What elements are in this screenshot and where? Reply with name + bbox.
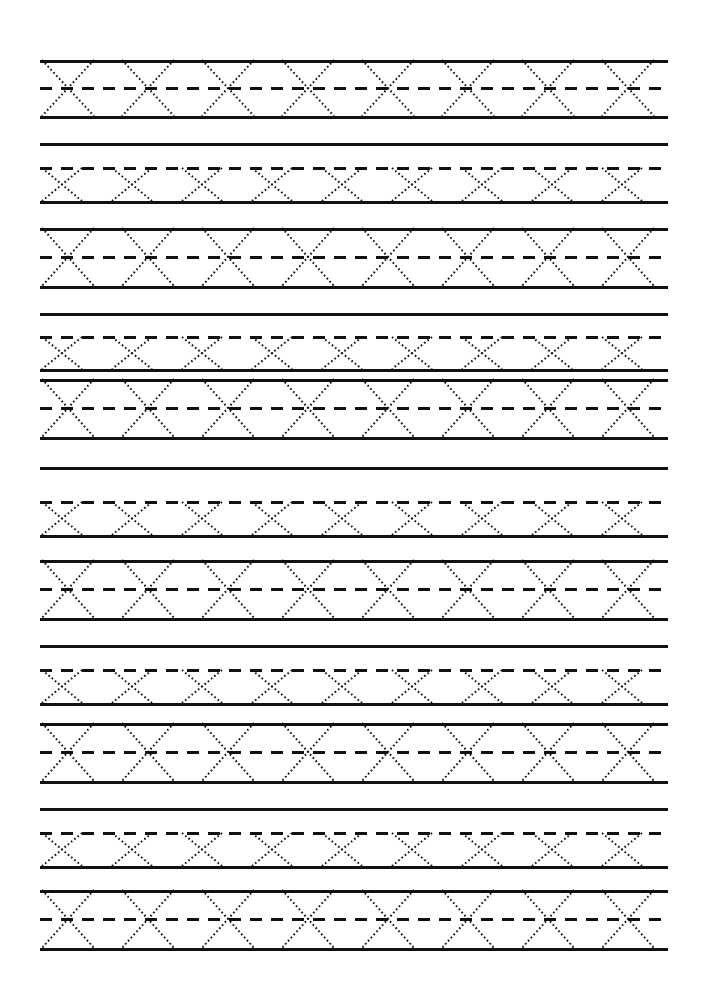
worksheet-page xyxy=(0,0,706,996)
trace-letter-x[interactable] xyxy=(252,502,292,535)
trace-letter-x[interactable] xyxy=(462,833,502,866)
trace-letter-x[interactable] xyxy=(602,228,654,286)
trace-letter-x[interactable] xyxy=(602,502,642,535)
trace-letter-x[interactable] xyxy=(182,670,222,703)
trace-letter-x[interactable] xyxy=(182,833,222,866)
trace-letter-x[interactable] xyxy=(252,168,292,201)
trace-letter-x[interactable] xyxy=(42,379,94,437)
trace-letter-x[interactable] xyxy=(282,60,334,116)
trace-letter-x[interactable] xyxy=(362,228,414,286)
guide-line-row9-base xyxy=(40,781,668,784)
trace-letter-x[interactable] xyxy=(392,337,432,369)
trace-letter-x[interactable] xyxy=(182,337,222,369)
trace-letter-x[interactable] xyxy=(522,890,574,948)
trace-letter-x[interactable] xyxy=(442,60,494,116)
trace-letter-x[interactable] xyxy=(282,723,334,781)
guide-line-row11-base xyxy=(40,948,668,951)
trace-letter-x[interactable] xyxy=(602,379,654,437)
trace-letter-x[interactable] xyxy=(42,890,94,948)
trace-letter-x[interactable] xyxy=(392,833,432,866)
trace-letter-x[interactable] xyxy=(122,560,174,618)
trace-letter-x[interactable] xyxy=(42,560,94,618)
trace-letter-x[interactable] xyxy=(602,890,654,948)
trace-letter-x[interactable] xyxy=(112,337,152,369)
guide-line-row5-base xyxy=(40,437,668,440)
trace-letter-x[interactable] xyxy=(522,560,574,618)
trace-letter-x[interactable] xyxy=(122,379,174,437)
trace-letter-x[interactable] xyxy=(462,670,502,703)
trace-letter-x[interactable] xyxy=(282,560,334,618)
trace-letter-x[interactable] xyxy=(42,228,94,286)
guide-line-separator xyxy=(40,467,668,470)
trace-letter-x[interactable] xyxy=(442,379,494,437)
trace-letter-x[interactable] xyxy=(392,168,432,201)
trace-letter-x[interactable] xyxy=(522,723,574,781)
trace-letter-x[interactable] xyxy=(522,60,574,116)
trace-letter-x[interactable] xyxy=(602,670,642,703)
trace-letter-x[interactable] xyxy=(322,670,362,703)
trace-letter-x[interactable] xyxy=(252,833,292,866)
trace-letter-x[interactable] xyxy=(252,337,292,369)
trace-letter-x[interactable] xyxy=(42,60,94,116)
trace-letter-x[interactable] xyxy=(362,60,414,116)
trace-letter-x[interactable] xyxy=(442,723,494,781)
trace-letter-x[interactable] xyxy=(122,723,174,781)
trace-letter-x[interactable] xyxy=(392,670,432,703)
trace-letter-x[interactable] xyxy=(362,560,414,618)
trace-letter-x[interactable] xyxy=(202,379,254,437)
trace-letter-x[interactable] xyxy=(532,670,572,703)
trace-letter-x[interactable] xyxy=(112,168,152,201)
trace-letter-x[interactable] xyxy=(602,560,654,618)
trace-letter-x[interactable] xyxy=(442,228,494,286)
trace-letter-x[interactable] xyxy=(122,890,174,948)
trace-letter-x[interactable] xyxy=(182,502,222,535)
trace-letter-x[interactable] xyxy=(362,890,414,948)
trace-letter-x[interactable] xyxy=(522,228,574,286)
trace-letter-x[interactable] xyxy=(602,833,642,866)
trace-letter-x[interactable] xyxy=(532,502,572,535)
trace-letter-x[interactable] xyxy=(202,890,254,948)
trace-letter-x[interactable] xyxy=(202,228,254,286)
guide-line-row7-base xyxy=(40,618,668,621)
trace-letter-x[interactable] xyxy=(202,723,254,781)
trace-letter-x[interactable] xyxy=(532,168,572,201)
trace-letter-x[interactable] xyxy=(202,60,254,116)
trace-letter-x[interactable] xyxy=(462,168,502,201)
trace-letter-x[interactable] xyxy=(202,560,254,618)
trace-letter-x[interactable] xyxy=(532,833,572,866)
trace-letter-x[interactable] xyxy=(42,833,82,866)
trace-letter-x[interactable] xyxy=(42,502,82,535)
trace-letter-x[interactable] xyxy=(42,168,82,201)
trace-letter-x[interactable] xyxy=(322,168,362,201)
trace-letter-x[interactable] xyxy=(112,670,152,703)
trace-letter-x[interactable] xyxy=(442,560,494,618)
trace-letter-x[interactable] xyxy=(252,670,292,703)
trace-letter-x[interactable] xyxy=(112,502,152,535)
trace-letter-x[interactable] xyxy=(322,502,362,535)
trace-letter-x[interactable] xyxy=(182,168,222,201)
trace-letter-x[interactable] xyxy=(122,60,174,116)
trace-letter-x[interactable] xyxy=(602,60,654,116)
trace-letter-x[interactable] xyxy=(282,228,334,286)
trace-letter-x[interactable] xyxy=(532,337,572,369)
trace-letter-x[interactable] xyxy=(322,833,362,866)
trace-letter-x[interactable] xyxy=(282,379,334,437)
trace-letter-x[interactable] xyxy=(602,723,654,781)
trace-letter-x[interactable] xyxy=(522,379,574,437)
trace-letter-x[interactable] xyxy=(42,670,82,703)
trace-letter-x[interactable] xyxy=(462,502,502,535)
trace-letter-x[interactable] xyxy=(122,228,174,286)
trace-letter-x[interactable] xyxy=(362,723,414,781)
trace-letter-x[interactable] xyxy=(462,337,502,369)
trace-letter-x[interactable] xyxy=(42,723,94,781)
trace-letter-x[interactable] xyxy=(322,337,362,369)
trace-letter-x[interactable] xyxy=(602,337,642,369)
trace-letter-x[interactable] xyxy=(282,890,334,948)
guide-line-row10-base xyxy=(40,866,668,869)
trace-letter-x[interactable] xyxy=(602,168,642,201)
trace-letter-x[interactable] xyxy=(112,833,152,866)
trace-letter-x[interactable] xyxy=(442,890,494,948)
trace-letter-x[interactable] xyxy=(42,337,82,369)
trace-letter-x[interactable] xyxy=(392,502,432,535)
trace-letter-x[interactable] xyxy=(362,379,414,437)
